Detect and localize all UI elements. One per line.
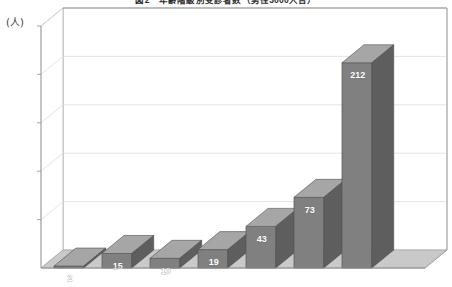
bar-value-label: 212 [350, 70, 365, 80]
bar-column [294, 179, 346, 268]
bar-value-label: 19 [209, 257, 219, 267]
bar-value-label: 10 [161, 266, 171, 276]
bar-value-label: 43 [257, 234, 267, 244]
bar-chart: 21510194373212 [0, 0, 452, 287]
bar-value-label: 73 [305, 205, 315, 215]
plot-left-wall [41, 8, 63, 268]
bar-value-label: 2 [67, 273, 72, 283]
bar-side-face [372, 45, 394, 268]
chart-svg: 21510194373212 [0, 0, 452, 287]
bar-front-face [342, 63, 372, 268]
bar-value-label: 15 [113, 261, 123, 271]
bar-front-face [246, 226, 276, 268]
